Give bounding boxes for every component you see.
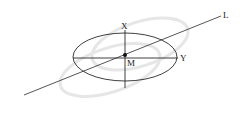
label-x: X <box>121 21 128 31</box>
label-y: Y <box>180 53 187 63</box>
label-l: L <box>223 10 229 20</box>
center-point <box>123 53 127 57</box>
ellipse-diagram: X M Y L <box>0 0 244 114</box>
label-m: M <box>127 58 135 68</box>
